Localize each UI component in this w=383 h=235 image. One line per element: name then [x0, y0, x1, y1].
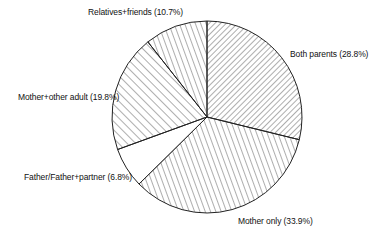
pie-chart: [0, 0, 383, 235]
label-father-partner: Father/Father+partner (6.8%): [24, 172, 132, 182]
label-mother-other-adult: Mother+other adult (19.8%): [18, 92, 119, 102]
label-relatives-friends: Relatives+friends (10.7%): [88, 7, 183, 17]
label-both-parents: Both parents (28.8%): [290, 49, 368, 59]
label-mother-only: Mother only (33.9%): [238, 216, 313, 226]
